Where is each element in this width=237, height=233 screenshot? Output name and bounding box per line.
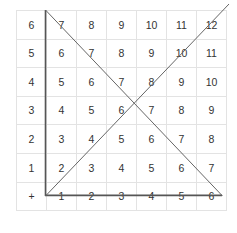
table-cell: 2 [47,153,77,182]
operator-corner-cell: + [17,182,47,211]
column-header: 5 [167,182,197,211]
table-cell: 11 [167,11,197,40]
table-cell: 6 [107,96,137,125]
table-cell: 12 [197,11,227,40]
row-header: 6 [17,11,47,40]
column-header: 4 [137,182,167,211]
table-cell: 3 [77,153,107,182]
table-cell: 7 [137,96,167,125]
table-cell: 6 [77,68,107,97]
column-header: 2 [77,182,107,211]
table-cell: 6 [167,153,197,182]
table-cell: 4 [77,125,107,154]
table-cell: 5 [77,96,107,125]
table-row: 2 3 4 5 6 7 8 [17,125,227,154]
table-cell: 4 [47,96,77,125]
table-cell: 10 [167,39,197,68]
table-cell: 7 [47,11,77,40]
column-header: 6 [197,182,227,211]
table-cell: 8 [197,125,227,154]
table-cell: 5 [107,125,137,154]
row-header: 2 [17,125,47,154]
row-header: 4 [17,68,47,97]
column-header: 3 [107,182,137,211]
row-header: 5 [17,39,47,68]
table-cell: 10 [197,68,227,97]
table-cell: 9 [137,39,167,68]
table-cell: 7 [77,39,107,68]
table-body: 6 7 8 9 10 11 12 5 6 7 8 9 10 11 4 5 6 [17,11,227,211]
table-cell: 11 [197,39,227,68]
table-cell: 4 [107,153,137,182]
addition-table: 6 7 8 9 10 11 12 5 6 7 8 9 10 11 4 5 6 [16,10,227,211]
row-header: 1 [17,153,47,182]
column-header: 1 [47,182,77,211]
table-cell: 9 [197,96,227,125]
table-row: 6 7 8 9 10 11 12 [17,11,227,40]
table-cell: 10 [137,11,167,40]
table-cell: 9 [167,68,197,97]
table-cell: 7 [197,153,227,182]
table-row: 5 6 7 8 9 10 11 [17,39,227,68]
table-cell: 3 [47,125,77,154]
table-row: 3 4 5 6 7 8 9 [17,96,227,125]
table-cell: 7 [107,68,137,97]
row-header: 3 [17,96,47,125]
table-cell: 6 [47,39,77,68]
table-cell: 9 [107,11,137,40]
table-cell: 5 [47,68,77,97]
table-cell: 7 [167,125,197,154]
table-row: 1 2 3 4 5 6 7 [17,153,227,182]
table-cell: 8 [107,39,137,68]
table-cell: 5 [137,153,167,182]
table-cell: 8 [137,68,167,97]
table-cell: 8 [167,96,197,125]
table-cell: 8 [77,11,107,40]
table-cell: 6 [137,125,167,154]
addition-table-figure: 6 7 8 9 10 11 12 5 6 7 8 9 10 11 4 5 6 [0,0,237,233]
table-footer-row: + 1 2 3 4 5 6 [17,182,227,211]
table-row: 4 5 6 7 8 9 10 [17,68,227,97]
